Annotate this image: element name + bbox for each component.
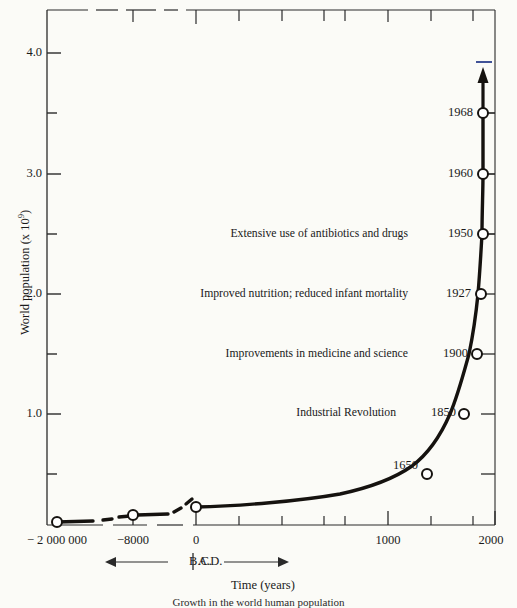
y-axis-title-close: ): [18, 210, 32, 214]
data-point-1850: [459, 409, 469, 419]
data-point-1960: [478, 169, 488, 179]
point-label-1850: 1850: [394, 406, 456, 419]
y-axis-title-text: World population (x 10: [18, 218, 32, 335]
y-tick-label-3: 3.0: [0, 167, 42, 180]
data-point-1650: [422, 469, 432, 479]
point-label-1927: 1927: [409, 287, 471, 300]
data-point-year0: [191, 502, 201, 512]
era-left-arrowhead: [105, 557, 116, 567]
y-axis-title: World population (x 109): [16, 210, 33, 335]
point-label-1950: 1950: [411, 227, 473, 240]
x-major-ticks: [133, 511, 495, 525]
data-point-1950: [478, 229, 488, 239]
x-tick-label-zero: 0: [176, 534, 216, 547]
annotation-antibiotics: Extensive use of antibiotics and drugs: [130, 228, 408, 240]
data-point-1968: [478, 108, 488, 118]
y-tick-label-2: 2.0: [0, 287, 42, 300]
annotation-medicine: Improvements in medicine and science: [130, 348, 408, 360]
y-tick-label-4: 4.0: [0, 46, 42, 59]
y-axis-exponent: 9: [16, 214, 26, 218]
annotation-industrial-revolution: Industrial Revolution: [170, 407, 396, 419]
data-point-prehistoric: [52, 517, 62, 527]
y-tick-label-1: 1.0: [0, 407, 42, 420]
figure-caption: Growth in the world human population: [0, 596, 517, 608]
x-tick-label-neg8000: −8000: [96, 534, 170, 547]
top-frame-ticks: [133, 10, 473, 24]
x-tick-label-2000: 2000: [466, 534, 516, 547]
population-curve-prehistoric: [57, 499, 192, 522]
era-right-arrowhead: [278, 557, 289, 567]
x-minor-ticks: [239, 516, 473, 525]
x-axis-title: Time (years): [208, 579, 318, 592]
data-point-1927: [476, 289, 486, 299]
annotation-nutrition: Improved nutrition; reduced infant morta…: [110, 288, 408, 300]
point-label-1968: 1968: [411, 106, 473, 119]
point-leader-lines: [488, 113, 495, 234]
curve-arrow-head: [478, 67, 489, 83]
x-tick-label-1000: 1000: [358, 534, 418, 547]
point-label-1900: 1900: [406, 347, 468, 360]
point-label-1650: 1650: [356, 459, 418, 472]
data-point-1900: [472, 349, 482, 359]
point-label-1960: 1960: [411, 167, 473, 180]
era-label-ad: A.D.: [198, 555, 238, 568]
data-point-8000bc: [128, 510, 138, 520]
